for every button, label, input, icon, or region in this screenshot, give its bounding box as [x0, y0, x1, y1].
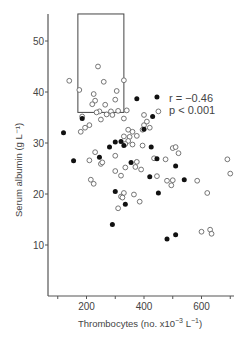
filled-point [80, 116, 85, 121]
open-point [67, 78, 72, 83]
filled-point [142, 127, 147, 132]
filled-point [71, 158, 76, 163]
open-point [83, 125, 88, 130]
filled-point [134, 96, 139, 101]
filled-point [150, 114, 155, 119]
open-point [94, 110, 99, 115]
open-point [113, 153, 118, 158]
open-point [78, 129, 83, 134]
scatter-chart: 1020304050200400600800 r = −0.46 p < 0.0… [0, 0, 234, 338]
open-point [132, 192, 137, 197]
x-tick-label: 600 [193, 301, 210, 312]
open-point [100, 160, 105, 165]
open-point [163, 157, 168, 162]
open-point [116, 108, 121, 113]
open-point [130, 129, 135, 134]
open-point [195, 178, 200, 183]
correlation-r: r = −0.46 [169, 92, 213, 104]
filled-point [154, 156, 159, 161]
open-point [140, 143, 145, 148]
filled-point [173, 232, 178, 237]
open-point [77, 88, 82, 93]
open-point [116, 206, 121, 211]
x-axis-title: Thrombocytes (no. x10−3 L−1) [78, 317, 202, 329]
open-point [169, 183, 174, 188]
open-point [176, 151, 181, 156]
open-point [130, 142, 135, 147]
filled-point [123, 202, 128, 207]
open-point [205, 191, 210, 196]
open-point [93, 150, 98, 155]
open-point [173, 145, 178, 150]
filled-point [97, 155, 102, 160]
open-point [110, 113, 115, 118]
open-point [121, 78, 126, 83]
y-tick-label: 50 [33, 36, 45, 47]
open-point [87, 158, 92, 163]
filled-point [119, 139, 124, 144]
x-tick-label: 400 [136, 301, 153, 312]
open-point [228, 171, 233, 176]
filled-point [165, 236, 170, 241]
open-point [103, 102, 108, 107]
y-tick-label: 30 [33, 138, 45, 149]
filled-point [110, 222, 115, 227]
y-tick-label: 10 [33, 240, 45, 251]
filled-point [156, 190, 161, 195]
filled-point [147, 174, 152, 179]
open-point [96, 64, 101, 69]
x-tick-label: 200 [78, 301, 95, 312]
open-point [142, 113, 147, 118]
open-point [121, 134, 126, 139]
open-point [90, 102, 95, 107]
open-point [225, 157, 230, 162]
open-point [155, 174, 160, 179]
open-point [119, 173, 124, 178]
open-point [124, 108, 129, 113]
open-point [123, 165, 128, 170]
open-point [101, 79, 106, 84]
open-point [147, 125, 152, 130]
open-point [133, 165, 138, 170]
open-point [199, 229, 204, 234]
open-point [144, 119, 149, 124]
filled-point [182, 177, 187, 182]
y-tick-label: 40 [33, 87, 45, 98]
open-point [137, 199, 142, 204]
open-point [91, 92, 96, 97]
open-point [113, 169, 118, 174]
open-point [114, 89, 119, 94]
open-point [120, 195, 125, 200]
filled-point [129, 160, 134, 165]
filled-point [113, 139, 118, 144]
open-point [98, 117, 103, 122]
open-point [139, 167, 144, 172]
filled-point [121, 143, 126, 148]
open-point [113, 97, 118, 102]
filled-point [107, 145, 112, 150]
open-point [121, 116, 126, 121]
filled-point [173, 163, 178, 168]
filled-point [113, 189, 118, 194]
open-point [134, 133, 139, 138]
open-point [156, 109, 161, 114]
open-point [165, 178, 170, 183]
open-point [91, 181, 96, 186]
filled-point [154, 95, 159, 100]
open-point [134, 159, 139, 164]
open-point [104, 112, 109, 117]
y-axis-title: Serum albumin (g L⁻¹) [13, 123, 24, 217]
filled-point [149, 145, 154, 150]
p-value: p < 0.001 [169, 104, 215, 116]
y-tick-label: 20 [33, 189, 45, 200]
open-point [209, 231, 214, 236]
filled-point [61, 130, 66, 135]
data-points [61, 64, 234, 241]
open-point [170, 178, 175, 183]
